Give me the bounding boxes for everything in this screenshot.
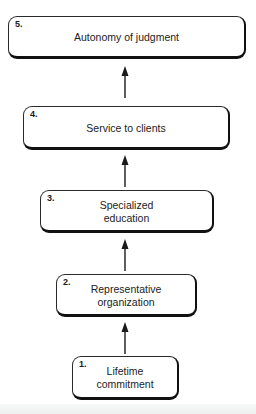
step-2-box: 2. Representative organization bbox=[56, 274, 197, 317]
step-5-box: 5. Autonomy of judgment bbox=[8, 16, 246, 59]
step-3-box: 3. Specialized education bbox=[40, 190, 214, 233]
arrow-up-icon bbox=[120, 239, 130, 271]
step-1-label: Lifetime commitment bbox=[73, 357, 177, 397]
arrow-up-icon bbox=[120, 322, 130, 354]
arrow-up-icon bbox=[120, 155, 130, 187]
arrow-up-icon bbox=[120, 66, 130, 98]
step-3-label: Specialized education bbox=[41, 191, 212, 230]
professionalism-hierarchy-diagram: 5. Autonomy of judgment 4. Service to cl… bbox=[0, 0, 256, 414]
step-4-box: 4. Service to clients bbox=[23, 106, 230, 150]
step-2-label: Representative organization bbox=[57, 275, 195, 314]
step-1-box: 1. Lifetime commitment bbox=[72, 356, 179, 400]
page-edge-tint bbox=[0, 404, 256, 414]
step-5-label: Autonomy of judgment bbox=[9, 17, 244, 56]
step-4-label: Service to clients bbox=[24, 107, 228, 147]
